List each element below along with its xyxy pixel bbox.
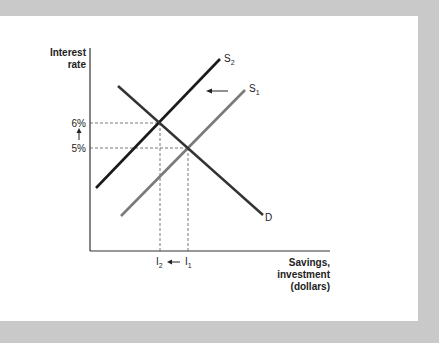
s1-label: S1: [249, 83, 260, 96]
tick-5pct: 5%: [72, 143, 87, 154]
quantity-arrow-head-icon: [167, 260, 172, 265]
x-axis-label-line3: (dollars): [291, 281, 330, 292]
tick-6pct: 6%: [72, 118, 87, 129]
supply-demand-diagram: S2 S1 D Interest rate 6% 5% I2 I1 Saving…: [0, 0, 439, 343]
d-label: D: [265, 212, 272, 223]
y-axis-label-line1: Interest: [50, 47, 87, 58]
s1-curve: [121, 90, 245, 216]
tick-I2: I2: [156, 256, 163, 269]
s2-curve: [96, 59, 220, 188]
x-axis-label-line2: investment: [277, 269, 330, 280]
s2-label: S2: [224, 53, 235, 66]
shift-arrow-head-icon: [206, 89, 212, 94]
tick-I1: I1: [185, 256, 192, 269]
x-axis-label-line1: Savings,: [289, 257, 330, 268]
y-axis-label-line2: rate: [68, 59, 87, 70]
